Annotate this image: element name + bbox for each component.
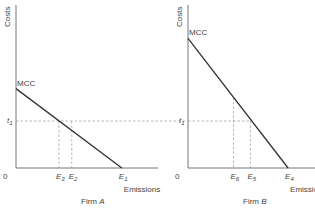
firm-a-origin-label: 0 bbox=[3, 172, 8, 181]
firm-a-tick-e2: E2 bbox=[69, 172, 78, 182]
firm-b-tick-e5: E5 bbox=[247, 172, 256, 182]
firm-a-title: Firm A bbox=[81, 197, 105, 206]
firm-b-y-label: Costs bbox=[175, 7, 184, 27]
b-title-letter: B bbox=[261, 197, 267, 206]
firm-a-y-label: Costs bbox=[3, 7, 12, 27]
firm-a-mcc-curve bbox=[16, 89, 122, 168]
firm-a-tax-label: t1 bbox=[7, 116, 13, 126]
firm-b-panel: Costs Emissions 0 MCC t1 E6 E5 E4 Firm B bbox=[175, 5, 315, 206]
firm-a-tick-e1: E1 bbox=[119, 172, 128, 182]
a-title-letter: A bbox=[98, 197, 104, 206]
firm-b-x-label: Emissions bbox=[290, 185, 315, 194]
firm-a-mcc-label: MCC bbox=[17, 79, 35, 88]
firm-a-panel: Costs Emissions 0 MCC t1 E3 E2 E1 Firm A bbox=[3, 5, 186, 206]
firm-b-tick-e4: E4 bbox=[285, 172, 294, 182]
firm-b-mcc-label: MCC bbox=[189, 28, 207, 37]
firm-a-x-label: Emissions bbox=[124, 185, 160, 194]
firm-b-origin-label: 0 bbox=[175, 172, 180, 181]
firm-a-tick-e3: E3 bbox=[56, 172, 65, 182]
chart-canvas: Costs Emissions 0 MCC t1 E3 E2 E1 Firm A… bbox=[0, 0, 315, 212]
firm-b-mcc-curve bbox=[188, 38, 288, 168]
firm-b-tick-e6: E6 bbox=[231, 172, 240, 182]
firm-b-tax-label: t1 bbox=[179, 116, 185, 126]
firm-b-title: Firm B bbox=[243, 197, 267, 206]
